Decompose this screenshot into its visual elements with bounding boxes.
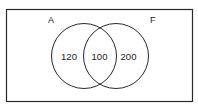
set-f-only-value: 200 [121,51,137,62]
set-f-label: F [150,15,156,25]
intersection-value: 100 [92,51,108,62]
set-a-label: A [48,15,54,25]
venn-diagram: A F 120 100 200 [0,0,198,107]
set-a-only-value: 120 [61,51,77,62]
